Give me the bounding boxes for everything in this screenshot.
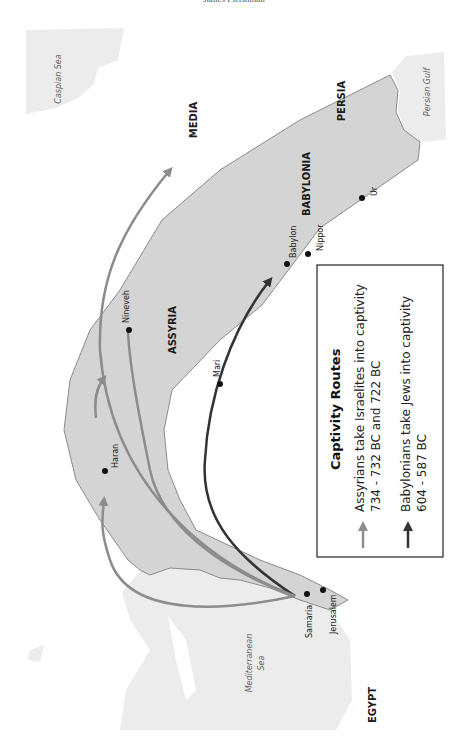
city-dot-haran bbox=[102, 468, 108, 474]
label-egypt: EGYPT bbox=[367, 687, 378, 723]
label-mediterranean-line2: Sea bbox=[257, 655, 266, 670]
captivity-routes-map: Caspian Sea Persian Gulf Mediterranean S… bbox=[0, 0, 468, 741]
legend-assyrian-line1: Assyrians take Israelites into captivity bbox=[353, 284, 367, 512]
city-dot-samaria bbox=[304, 591, 310, 597]
label-nippor: Nippor bbox=[316, 224, 325, 251]
city-dot-ur bbox=[359, 195, 365, 201]
label-babylonia: BABYLONIA bbox=[301, 152, 312, 216]
label-mari: Mari bbox=[213, 360, 222, 377]
label-mediterranean-line1: Mediterranean bbox=[245, 634, 254, 693]
land-patch bbox=[28, 645, 44, 662]
label-nineveh: Nineveh bbox=[122, 290, 131, 323]
label-caspian-sea: Caspian Sea bbox=[54, 54, 63, 103]
city-dot-mari bbox=[217, 381, 223, 387]
caspian-sea bbox=[26, 28, 124, 114]
label-haran: Haran bbox=[111, 444, 120, 468]
label-persian-gulf: Persian Gulf bbox=[423, 67, 432, 116]
legend-title: Captivity Routes bbox=[328, 348, 343, 470]
city-dot-nippor bbox=[305, 251, 311, 257]
city-dot-babylon bbox=[284, 261, 290, 267]
label-media: MEDIA bbox=[188, 101, 199, 138]
label-samaria: Samaria bbox=[305, 605, 314, 638]
label-assyria: ASSYRIA bbox=[167, 306, 178, 354]
legend-assyrian-line2: 734 - 732 BC and 722 BC bbox=[369, 361, 383, 512]
legend-babylonian-line1: Babylonians take Jews into captivity bbox=[399, 296, 413, 512]
city-dot-jerusalem bbox=[320, 587, 326, 593]
legend-babylonian-line2: 604 - 587 BC bbox=[415, 434, 429, 512]
label-persia: PERSIA bbox=[336, 80, 347, 121]
label-jerusalem: Jerusalem bbox=[329, 594, 338, 635]
label-babylon: Babylon bbox=[289, 226, 298, 258]
legend: Captivity Routes Assyrians take Israelit… bbox=[317, 265, 443, 557]
city-dot-nineveh bbox=[126, 327, 132, 333]
label-ur: Ur bbox=[370, 186, 379, 196]
